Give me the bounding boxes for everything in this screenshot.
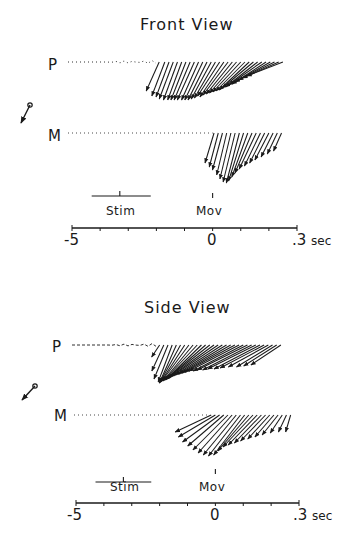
velocity-arrow [267, 133, 277, 154]
velocity-arrow [152, 345, 160, 357]
velocity-arrow [278, 415, 286, 432]
velocity-arrow [286, 415, 291, 432]
velocity-arrow [146, 62, 159, 91]
side-view-plot [72, 344, 299, 506]
baseline-trace [68, 61, 156, 64]
velocity-arrow [244, 133, 260, 166]
velocity-arrow [274, 133, 282, 151]
baseline-trace [72, 344, 156, 347]
orientation-vector-icon [21, 103, 32, 123]
velocity-arrow [209, 133, 218, 167]
velocity-arrow [212, 133, 222, 170]
velocity-arrow [172, 345, 218, 376]
velocity-arrow [250, 133, 265, 163]
velocity-arrow [161, 345, 185, 382]
front-view-plot [68, 61, 297, 232]
vector-figure [0, 0, 346, 539]
velocity-arrow [248, 415, 270, 439]
velocity-arrow [217, 133, 227, 175]
velocity-arrow [205, 133, 214, 163]
velocity-arrow [203, 62, 228, 95]
velocity-arrow [214, 415, 245, 455]
velocity-arrow [152, 345, 164, 371]
velocity-arrow [220, 345, 264, 368]
velocity-arrow [175, 415, 211, 432]
orientation-vector-icon [22, 384, 37, 400]
